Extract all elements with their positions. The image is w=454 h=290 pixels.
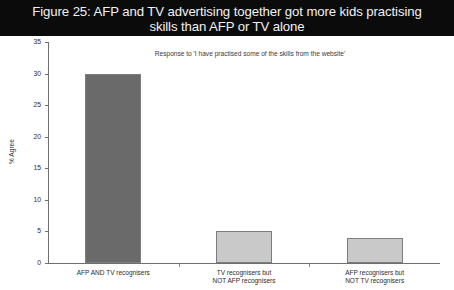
y-axis-tick-label: 10 [33,195,41,204]
y-axis-tick-label: 5 [37,226,41,235]
y-axis-line [48,42,49,264]
y-axis-title: % Agree [8,126,15,178]
x-axis-category-label-line: TV recognisers but [179,269,310,277]
figure-title-line-2: skills than AFP or TV alone [149,19,304,35]
figure-title-line-1: Figure 25: AFP and TV advertising togeth… [32,4,421,20]
chart-screenshot: Figure 25: AFP and TV advertising togeth… [0,0,454,290]
x-axis-category-label-line: AFP AND TV recognisers [48,269,179,277]
x-axis-category-label-line: NOT AFP recognisers [179,277,310,285]
y-axis-tick-mark [45,200,48,201]
y-axis-tick-label: 0 [37,258,41,267]
y-axis-tick-mark [45,231,48,232]
x-axis-tick-mark [179,264,180,267]
y-axis-tick-mark [45,105,48,106]
x-axis-category-label-line: AFP recognisers but [309,269,440,277]
bar [85,74,141,263]
y-axis-tick-mark [45,168,48,169]
y-axis-tick-label: 20 [33,132,41,141]
bar [347,238,403,263]
y-axis-tick-label: 15 [33,163,41,172]
x-axis-category-label-line: NOT TV recognisers [309,277,440,285]
x-axis-tick-mark [309,264,310,267]
y-axis-tick-mark [45,42,48,43]
y-axis-tick-label: 35 [33,37,41,46]
x-axis-category-label: AFP recognisers butNOT TV recognisers [309,269,440,286]
y-axis-tick-mark [45,263,48,264]
y-axis-tick-label: 30 [33,69,41,78]
x-axis-line [48,263,440,264]
chart-subtitle: Response to 'I have practised some of th… [120,50,380,58]
y-axis-tick-mark [45,74,48,75]
x-axis-category-label: TV recognisers butNOT AFP recognisers [179,269,310,286]
figure-title-banner: Figure 25: AFP and TV advertising togeth… [0,0,454,36]
y-axis-tick-mark [45,137,48,138]
chart-plot-area: Response to 'I have practised some of th… [0,36,454,290]
bar [216,231,272,263]
y-axis-tick-label: 25 [33,100,41,109]
x-axis-category-label: AFP AND TV recognisers [48,269,179,277]
